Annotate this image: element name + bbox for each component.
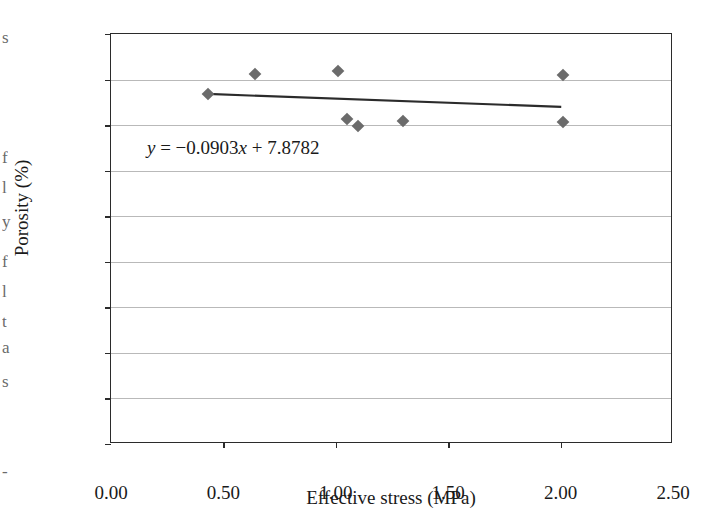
gridline-horizontal — [111, 398, 671, 399]
y-tick-mark — [105, 216, 111, 217]
equation-variable-x: x — [239, 137, 247, 158]
x-tick-mark — [448, 442, 449, 448]
gridline-horizontal — [111, 262, 671, 263]
y-tick-mark — [105, 444, 111, 445]
regression-equation-label: y = −0.0903x + 7.8782 — [147, 137, 320, 159]
plot-area: y = −0.0903x + 7.8782 4.04.55.05.56.06.5… — [110, 33, 672, 443]
trendline — [111, 34, 671, 442]
gridline-horizontal — [111, 125, 671, 126]
equation-body: = −0.0903 — [155, 137, 238, 158]
y-tick-mark — [105, 307, 111, 308]
porosity-vs-effective-stress-chart: Porosity (%) Effective stress (MPa) y = … — [0, 0, 724, 524]
x-tick-label: 2.00 — [521, 482, 601, 504]
gridline-horizontal — [111, 171, 671, 172]
gridline-horizontal — [111, 216, 671, 217]
y-axis-title: Porosity (%) — [11, 128, 33, 288]
x-tick-mark — [336, 442, 337, 448]
x-tick-label: 0.00 — [71, 482, 151, 504]
y-tick-mark — [105, 262, 111, 263]
x-tick-mark — [561, 442, 562, 448]
gridline-horizontal — [111, 353, 671, 354]
x-tick-label: 1.00 — [296, 482, 376, 504]
x-tick-label: 1.50 — [408, 482, 488, 504]
y-tick-mark — [105, 353, 111, 354]
y-tick-mark — [105, 80, 111, 81]
x-tick-label: 2.50 — [633, 482, 713, 504]
y-tick-mark — [105, 34, 111, 35]
x-tick-mark — [223, 442, 224, 448]
y-tick-mark — [105, 398, 111, 399]
y-tick-mark — [105, 171, 111, 172]
equation-tail: + 7.8782 — [247, 137, 319, 158]
gridline-horizontal — [111, 307, 671, 308]
gridline-horizontal — [111, 80, 671, 81]
y-tick-mark — [105, 125, 111, 126]
x-tick-label: 0.50 — [183, 482, 263, 504]
